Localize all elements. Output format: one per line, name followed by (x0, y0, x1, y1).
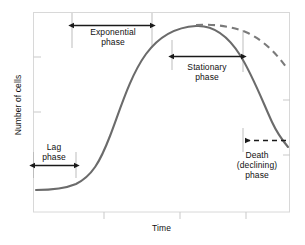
x-axis-label: Time (33, 223, 290, 233)
x-axis-ticks (104, 212, 246, 219)
stationary-phase-label: Stationary phase (170, 62, 244, 82)
growth-curve-figure: Number of cells Time Lag phase Exponenti… (0, 0, 305, 245)
exponential-phase-label: Exponential phase (72, 27, 154, 47)
y-axis-label: Number of cells (13, 65, 23, 145)
death-phase-label: Death (declining) phase (222, 150, 292, 180)
lag-phase-label: Lag phase (20, 142, 88, 162)
